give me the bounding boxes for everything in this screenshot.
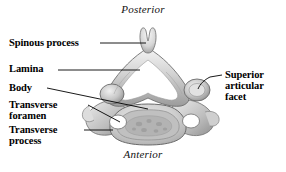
label-superior-articular-facet: Superior articular facet [225,69,264,103]
vertebra-diagram: Posterior Anterior [0,0,286,172]
right-transverse-foramen [183,114,200,128]
left-transverse-foramen [110,115,127,129]
label-body: Body [9,82,32,93]
left-superior-articular-facet [100,84,124,104]
label-transverse-foramen: Transverse foramen [9,99,57,121]
right-facet-inner [189,84,205,97]
bone-shape-group [82,28,219,145]
spinous-process [140,28,156,53]
label-spinous-process: Spinous process [9,37,79,48]
vertebral-body-trabeculae [125,116,171,136]
label-transverse-process: Transverse process [9,124,57,146]
label-lamina: Lamina [9,63,43,74]
